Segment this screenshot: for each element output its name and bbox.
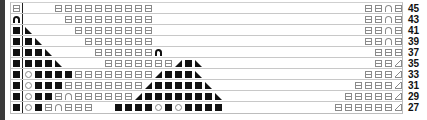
knit-box-icon [385,49,392,56]
knit-box-icon [55,93,62,100]
knit-box-icon [365,38,372,45]
knit-box-icon [105,93,112,100]
filled-square-icon [35,71,42,78]
knit-box-icon [355,93,362,100]
arch-icon [55,104,62,111]
knit-box-icon [75,16,82,23]
knit-box-icon [125,49,132,56]
knit-box-icon [115,27,122,34]
knitting-chart-grid [10,2,403,114]
row-label: 39 [408,36,426,47]
filled-square-icon [35,104,42,111]
outlined-triangle-icon [395,82,402,89]
outlined-triangle-icon [395,93,402,100]
row-label: 33 [408,69,426,80]
edge-filled-square-icon [13,49,20,56]
knit-box-icon [95,38,102,45]
yarn-over-circle-icon [25,104,32,111]
knit-box-icon [155,60,162,67]
knit-box-icon [85,71,92,78]
filled-square-icon [185,82,192,89]
knit-box-icon [385,104,392,111]
knit-box-icon [115,60,122,67]
knit-box-icon [135,82,142,89]
knit-box-icon [135,5,142,12]
knit-box-icon [85,93,92,100]
knit-box-icon [125,82,132,89]
knit-box-icon [115,38,122,45]
knit-box-icon [145,49,152,56]
row-label: 35 [408,58,426,69]
left-triangle-icon [205,82,212,89]
chart-row-35 [11,58,402,69]
knit-box-icon [65,82,72,89]
filled-square-icon [35,93,42,100]
knit-box-icon [375,49,382,56]
knit-box-icon [395,49,402,56]
knit-box-icon [395,5,402,12]
filled-square-icon [155,93,162,100]
arch-icon [385,27,392,34]
filled-square-icon [195,82,202,89]
knit-box-icon [375,60,382,67]
knit-box-icon [95,71,102,78]
knit-box-icon [365,5,372,12]
knit-box-icon [395,27,402,34]
filled-square-icon [215,104,222,111]
knit-box-icon [375,38,382,45]
arch-icon [385,5,392,12]
chart-row-39 [11,36,402,47]
outlined-triangle-icon [395,71,402,78]
knit-box-icon [85,27,92,34]
knit-box-icon [105,5,112,12]
knit-box-icon [75,82,82,89]
knit-box-icon [105,38,112,45]
left-triangle-icon [25,27,32,34]
filled-square-icon [25,60,32,67]
knit-box-icon [115,5,122,12]
arch-icon [385,16,392,23]
knit-box-icon [95,82,102,89]
knit-box-icon [125,60,132,67]
right-triangle-icon [175,60,182,67]
chart-row-33 [11,69,402,80]
knit-box-icon [145,16,152,23]
knit-box-icon [385,93,392,100]
filled-square-icon [175,71,182,78]
knit-box-icon [365,27,372,34]
edge-bold-arch-icon [13,16,20,23]
edge-filled-square-icon [13,27,20,34]
knit-box-icon [95,93,102,100]
knit-box-icon [365,71,372,78]
knit-box-icon [85,16,92,23]
knit-box-icon [115,49,122,56]
chart-row-41 [11,25,402,36]
yarn-over-circle-icon [25,93,32,100]
filled-square-icon [165,93,172,100]
chart-row-37 [11,47,402,58]
knit-box-icon [375,82,382,89]
knit-box-icon [375,27,382,34]
knit-box-icon [345,93,352,100]
knit-box-icon [375,104,382,111]
knit-box-icon [365,82,372,89]
edge-knit-box-icon [13,5,20,12]
filled-square-icon [115,104,122,111]
knit-box-icon [115,16,122,23]
knit-box-icon [135,16,142,23]
knit-box-icon [85,5,92,12]
knit-box-icon [365,16,372,23]
filled-square-icon [55,82,62,89]
knit-box-icon [385,82,392,89]
knit-box-icon [65,16,72,23]
row-label: 45 [408,3,426,14]
knit-box-icon [95,49,102,56]
knit-box-icon [105,49,112,56]
knit-box-icon [135,38,142,45]
filled-square-icon [165,71,172,78]
knit-box-icon [135,27,142,34]
knit-box-icon [135,49,142,56]
knit-box-icon [145,5,152,12]
knit-box-icon [345,104,352,111]
filled-square-icon [145,104,152,111]
